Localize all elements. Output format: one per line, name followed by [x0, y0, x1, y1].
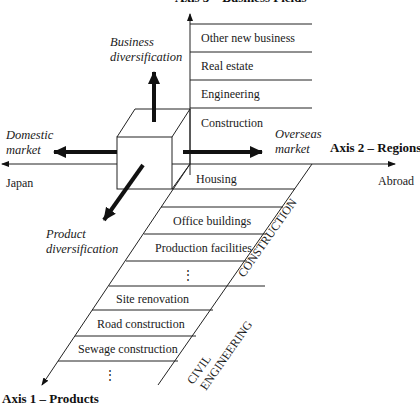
product-office-buildings: Office buildings: [173, 214, 251, 228]
product-construction-ellipsis: ⋮: [182, 268, 194, 282]
product-housing: Housing: [196, 172, 237, 186]
left-label-line1: Domestic: [5, 128, 54, 142]
axis2-left-end: Japan: [6, 176, 33, 190]
product-road-construction: Road construction: [97, 317, 185, 331]
axis2-right-end: Abroad: [378, 174, 414, 188]
down-label-line2: diversification: [46, 242, 118, 256]
business-field-real-estate: Real estate: [201, 59, 253, 73]
up-label-line2: diversification: [110, 50, 182, 64]
axis2-label: Axis 2 – Regions: [330, 140, 420, 155]
business-field-engineering: Engineering: [201, 87, 260, 101]
product-production-facilities: Production facilities: [155, 241, 252, 255]
products-table: Housing Office buildings Production faci…: [58, 172, 295, 382]
product-civil-ellipsis: ⋮: [104, 368, 116, 382]
left-label-line2: market: [6, 143, 41, 157]
product-site-renovation: Site renovation: [116, 292, 189, 306]
axis1-label: Axis 1 – Products: [2, 391, 99, 406]
three-axis-business-diagram: Axis 3 – Business Fields Other new busin…: [0, 0, 420, 408]
down-label-line1: Product: [45, 227, 86, 241]
product-sewage-construction: Sewage construction: [78, 342, 178, 356]
group-label-construction: CONSTRUCTION: [235, 196, 300, 280]
right-label-line1: Overseas: [275, 127, 322, 141]
business-field-other-new: Other new business: [201, 31, 295, 45]
arrow-down-product-diversification: [104, 165, 143, 220]
right-label-line2: market: [275, 142, 310, 156]
up-label-line1: Business: [110, 35, 154, 49]
business-fields-table: Other new business Real estate Engineeri…: [190, 24, 312, 130]
business-field-construction: Construction: [201, 116, 263, 130]
axis3-label: Axis 3 – Business Fields: [175, 0, 306, 5]
